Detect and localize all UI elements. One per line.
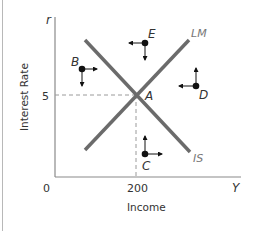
origin-label: 0 [43,182,50,195]
point-d-label: D [199,88,208,102]
point-c-label: C [142,159,151,173]
x-axis-symbol: Y [232,181,241,195]
point-c [142,136,162,157]
point-d [179,68,199,89]
x-tick-200: 200 [127,182,148,195]
y-tick-5: 5 [42,90,49,103]
is-lm-diagram: r Y 0 5 200 Income Interest Rate LM IS A… [0,0,253,231]
x-axis-title: Income [127,201,166,213]
point-b [79,66,97,86]
point-e [129,40,148,60]
y-axis-title: Interest Rate [18,63,30,131]
lm-label: LM [191,27,207,40]
point-a-label: A [144,89,153,103]
point-b-label: B [71,55,79,69]
is-label: IS [193,152,203,165]
point-e-label: E [148,27,156,41]
y-axis-symbol: r [46,13,52,27]
